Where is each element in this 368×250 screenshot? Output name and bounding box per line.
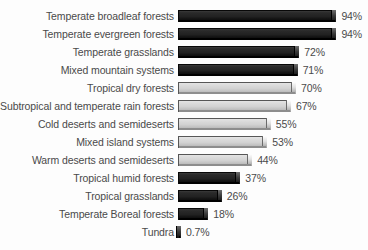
bar-track: 55%: [178, 115, 368, 133]
bar-bevel-cap: [293, 64, 298, 76]
bar-track: 18%: [178, 205, 368, 223]
bar: [178, 136, 267, 148]
value-label: 26%: [227, 190, 248, 202]
bar-bevel-cap: [286, 100, 291, 112]
bar: [178, 154, 252, 166]
category-label: Temperate grasslands: [0, 46, 178, 58]
bar-track: 71%: [178, 61, 368, 79]
bar-track: 94%: [178, 25, 368, 43]
bar-bottom-shadow: [179, 200, 221, 202]
value-label: 55%: [276, 118, 297, 130]
bar-row: Subtropical and temperate rain forests67…: [0, 97, 368, 115]
bar-bottom-shadow: [179, 74, 297, 76]
category-label: Tropical grasslands: [0, 190, 178, 202]
category-label: Temperate evergreen forests: [0, 28, 178, 40]
bar-row: Cold deserts and semideserts55%: [0, 115, 368, 133]
chart-rows: Temperate broadleaf forests94%Temperate …: [0, 7, 368, 241]
bar-bottom-shadow: [179, 56, 298, 58]
bar-bevel-cap: [266, 118, 271, 130]
bar: [178, 100, 291, 112]
bar-bevel-cap: [262, 136, 267, 148]
bar-row: Tropical grasslands26%: [0, 187, 368, 205]
horizontal-bar-chart: Temperate broadleaf forests94%Temperate …: [0, 0, 368, 250]
bar: [178, 172, 240, 184]
bar-row: Mixed island systems53%: [0, 133, 368, 151]
value-label: 44%: [257, 154, 278, 166]
value-label: 94%: [341, 10, 362, 22]
category-label: Temperate broadleaf forests: [0, 10, 178, 22]
bar-bottom-shadow: [179, 92, 295, 94]
bar-row: Temperate broadleaf forests94%: [0, 7, 368, 25]
category-label: Temperate Boreal forests: [0, 208, 178, 220]
bar: [178, 190, 222, 202]
bar-bevel-cap: [331, 28, 336, 40]
value-label: 94%: [341, 28, 362, 40]
bar: [178, 208, 208, 220]
bar-track: 37%: [178, 169, 368, 187]
bar: [178, 46, 299, 58]
bar-bevel-cap: [217, 190, 222, 202]
bar-track: 72%: [178, 43, 368, 61]
category-label: Tundra: [0, 226, 178, 238]
value-label: 53%: [272, 136, 293, 148]
bar-bottom-shadow: [179, 164, 251, 166]
bar: [178, 226, 181, 238]
bar-bottom-shadow: [179, 146, 266, 148]
value-label: 0.7%: [186, 226, 210, 238]
bar-bottom-shadow: [179, 236, 180, 238]
bar-row: Mixed mountain systems71%: [0, 61, 368, 79]
bar: [178, 64, 298, 76]
category-label: Subtropical and temperate rain forests: [0, 100, 178, 112]
bar-track: 70%: [178, 79, 368, 97]
bar-row: Temperate Boreal forests18%: [0, 205, 368, 223]
bar-track: 26%: [178, 187, 368, 205]
value-label: 70%: [301, 82, 322, 94]
bar-bottom-shadow: [179, 182, 239, 184]
bar-bottom-shadow: [179, 20, 335, 22]
bar-bevel-cap: [235, 172, 240, 184]
bar-bevel-cap: [294, 46, 299, 58]
bar-row: Warm deserts and semideserts44%: [0, 151, 368, 169]
category-label: Tropical dry forests: [0, 82, 178, 94]
bar-bevel-cap: [291, 82, 296, 94]
category-label: Warm deserts and semideserts: [0, 154, 178, 166]
category-label: Mixed mountain systems: [0, 64, 178, 76]
bar-bottom-shadow: [179, 128, 270, 130]
value-label: 67%: [296, 100, 317, 112]
bar-track: 53%: [178, 133, 368, 151]
value-label: 18%: [213, 208, 234, 220]
bar-track: 94%: [178, 7, 368, 25]
bar-row: Tropical humid forests37%: [0, 169, 368, 187]
bar: [178, 10, 336, 22]
value-label: 71%: [303, 64, 324, 76]
value-label: 72%: [304, 46, 325, 58]
value-label: 37%: [245, 172, 266, 184]
bar-bevel-cap: [247, 154, 252, 166]
bar: [178, 118, 271, 130]
bar-row: Temperate evergreen forests94%: [0, 25, 368, 43]
bar-bottom-shadow: [179, 38, 335, 40]
bar-bottom-shadow: [179, 218, 207, 220]
bar: [178, 28, 336, 40]
bar-track: 0.7%: [178, 223, 368, 241]
category-label: Mixed island systems: [0, 136, 178, 148]
bar: [178, 82, 296, 94]
bar-row: Temperate grasslands72%: [0, 43, 368, 61]
category-label: Cold deserts and semideserts: [0, 118, 178, 130]
category-label: Tropical humid forests: [0, 172, 178, 184]
bar-row: Tundra0.7%: [0, 223, 368, 241]
bar-bevel-cap: [331, 10, 336, 22]
bar-bottom-shadow: [179, 110, 290, 112]
bar-track: 44%: [178, 151, 368, 169]
bar-bevel-cap: [203, 208, 208, 220]
bar-track: 67%: [178, 97, 368, 115]
bar-row: Tropical dry forests70%: [0, 79, 368, 97]
